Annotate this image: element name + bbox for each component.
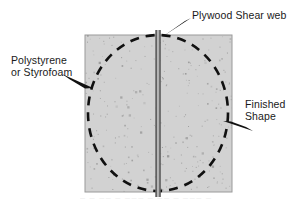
arrow-to-plywood-web [162, 18, 191, 37]
label-plywood-line1: Plywood Shear web [192, 9, 287, 21]
partial-caption: — — —— — ——— — —— — ——— — [80, 195, 260, 201]
label-plywood-shear-web: Plywood Shear web [192, 9, 287, 21]
diagram-canvas: Polystyrene or Styrofoam Plywood Shear w… [0, 0, 308, 201]
label-polystyrene-line1: Polystyrene [11, 54, 72, 66]
label-finished-line1: Finished [245, 98, 286, 110]
label-finished-shape: Finished Shape [245, 98, 286, 122]
plywood-shear-web [156, 30, 161, 197]
label-polystyrene: Polystyrene or Styrofoam [11, 54, 72, 78]
label-finished-line2: Shape [245, 110, 286, 122]
label-polystyrene-line2: or Styrofoam [11, 66, 72, 78]
